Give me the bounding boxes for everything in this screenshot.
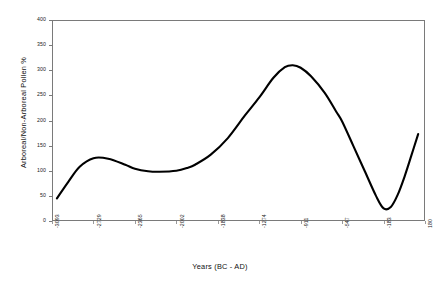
pollen-line-chart: 050100150200250300350400 -3093-2729-2365… [0, 0, 440, 285]
y-axis-title: Arboreal/Non-Arboreal Pollen % [19, 28, 28, 198]
data-curve-layer [0, 0, 440, 285]
data-series-line [57, 65, 418, 209]
x-axis-title: Years (BC - AD) [0, 262, 440, 271]
